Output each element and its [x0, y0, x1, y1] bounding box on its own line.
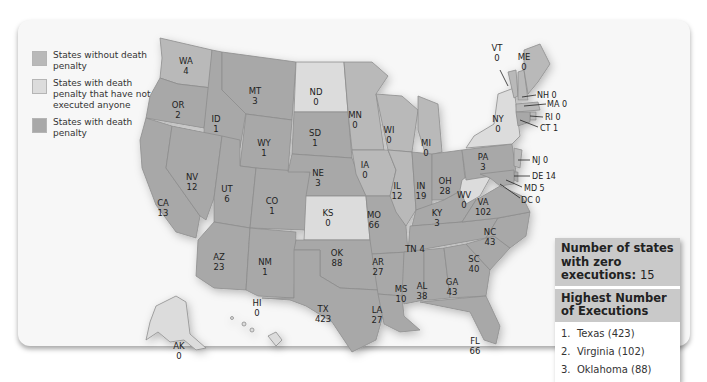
- zero-executions-count: 15: [640, 268, 655, 282]
- svg-text:HI0: HI0: [253, 298, 262, 318]
- svg-text:AK0: AK0: [173, 341, 185, 361]
- svg-text:AR27: AR27: [372, 257, 384, 277]
- state-DE[interactable]: [514, 172, 518, 182]
- list-item: 1. Texas (423): [561, 327, 674, 340]
- state-KS[interactable]: [304, 196, 370, 240]
- svg-text:NH 0: NH 0: [537, 91, 557, 100]
- svg-text:MA 0: MA 0: [547, 100, 567, 109]
- hi-island: [231, 317, 234, 320]
- state-SD[interactable]: [292, 112, 352, 158]
- svg-text:DC 0: DC 0: [521, 196, 540, 205]
- svg-text:CT 1: CT 1: [540, 124, 558, 133]
- svg-text:OH28: OH28: [438, 176, 451, 196]
- svg-text:LA27: LA27: [372, 305, 383, 325]
- state-MA[interactable]: [516, 102, 540, 112]
- hi-island: [250, 328, 254, 332]
- list-item: 2. Virginia (102): [561, 345, 674, 358]
- summary-panel: Number of states with zero executions: 1…: [555, 238, 680, 382]
- list-item: 3. Oklahoma (88): [561, 363, 674, 376]
- svg-text:NJ 0: NJ 0: [532, 156, 548, 165]
- highest-executions-list: 1. Texas (423) 2. Virginia (102) 3. Okla…: [555, 322, 680, 382]
- zero-executions-label: Number of states with zero executions:: [561, 241, 674, 282]
- state-CO[interactable]: [250, 168, 310, 230]
- svg-text:DE 14: DE 14: [532, 172, 556, 181]
- state-HI[interactable]: [268, 332, 282, 346]
- highest-executions-title: Highest Number of Executions: [555, 289, 680, 322]
- svg-text:NC43: NC43: [484, 227, 496, 247]
- svg-text:NV12: NV12: [186, 172, 198, 192]
- zero-executions-box: Number of states with zero executions: 1…: [555, 238, 680, 286]
- svg-text:GA43: GA43: [446, 277, 459, 297]
- svg-text:OK88: OK88: [331, 248, 344, 268]
- svg-text:TN 4: TN 4: [404, 244, 425, 254]
- svg-text:RI 0: RI 0: [545, 113, 561, 122]
- state-NJ[interactable]: [514, 148, 522, 168]
- hi-island: [242, 322, 246, 326]
- svg-text:CA13: CA13: [157, 198, 169, 218]
- svg-text:SC40: SC40: [468, 254, 479, 274]
- svg-text:MO66: MO66: [367, 210, 381, 230]
- svg-text:MD 5: MD 5: [524, 184, 545, 193]
- svg-text:AZ23: AZ23: [213, 252, 225, 272]
- state-FL[interactable]: [420, 296, 500, 344]
- state-CT[interactable]: [516, 112, 530, 126]
- svg-text:VT0: VT0: [491, 43, 503, 63]
- svg-text:MS10: MS10: [395, 284, 408, 304]
- svg-text:AL38: AL38: [417, 281, 428, 301]
- svg-text:FL66: FL66: [470, 336, 481, 356]
- svg-text:IN19: IN19: [416, 181, 427, 201]
